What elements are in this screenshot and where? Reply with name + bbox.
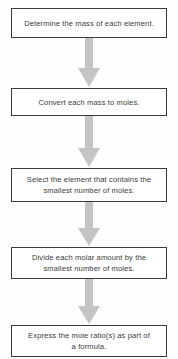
flowchart-diagram: Determine the mass of each element. Conv… <box>0 0 178 359</box>
flowchart-step-4: Divide each molar amount by the smallest… <box>11 247 167 279</box>
down-arrow-icon <box>77 202 101 247</box>
flowchart-step-3: Select the element that contains the sma… <box>11 168 167 202</box>
down-arrow-icon <box>77 38 101 88</box>
down-arrow-icon <box>77 279 101 325</box>
flowchart-step-3-label: Select the element that contains the sma… <box>22 174 156 196</box>
flowchart-step-2-label: Convert each mass to moles. <box>33 97 144 108</box>
flowchart-step-1-label: Determine the mass of each element. <box>19 18 159 29</box>
down-arrow-icon <box>77 116 101 168</box>
flowchart-step-5-label: Express the mole ratio(s) as part of a f… <box>23 330 155 352</box>
flowchart-step-4-label: Divide each molar amount by the smallest… <box>27 252 151 274</box>
flowchart-step-5: Express the mole ratio(s) as part of a f… <box>11 325 167 357</box>
flowchart-step-1: Determine the mass of each element. <box>11 8 167 38</box>
flowchart-step-2: Convert each mass to moles. <box>11 88 167 116</box>
